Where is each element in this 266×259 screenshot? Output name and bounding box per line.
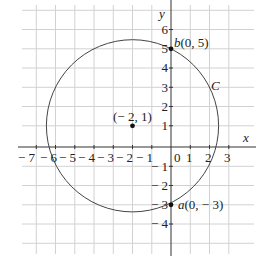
svg-text:− 6: − 6	[40, 150, 58, 165]
svg-text:− 7: − 7	[18, 150, 36, 165]
svg-text:4: 4	[162, 60, 169, 75]
svg-text:− 1: − 1	[151, 159, 168, 174]
svg-text:6: 6	[162, 22, 169, 37]
svg-text:− 3: − 3	[151, 197, 168, 212]
svg-text:2: 2	[205, 150, 212, 165]
center-label: (− 2, 1)	[113, 109, 152, 124]
svg-text:− 4: − 4	[151, 216, 169, 231]
point-a-label: a(0, − 3)	[178, 197, 223, 212]
point-center	[130, 123, 135, 128]
svg-text:− 2: − 2	[116, 150, 133, 165]
svg-text:− 5: − 5	[59, 150, 76, 165]
point-a	[169, 202, 174, 207]
svg-text:− 4: − 4	[78, 150, 96, 165]
point-b	[169, 46, 174, 51]
y-tick-labels: 6 5 4 3 2 1 − 1 − 2 − 3 − 4	[151, 22, 169, 231]
svg-text:2: 2	[162, 99, 169, 114]
svg-text:3: 3	[162, 80, 169, 95]
svg-text:1: 1	[186, 150, 193, 165]
coordinate-plane: y x − 7 − 6 − 5 − 4 − 3 − 2 − 1 0 1 2 3 …	[0, 0, 266, 259]
svg-text:3: 3	[224, 150, 231, 165]
circle-label: C	[211, 78, 220, 93]
point-b-label: b(0, 5)	[174, 35, 209, 50]
svg-text:− 3: − 3	[97, 150, 114, 165]
svg-text:− 2: − 2	[151, 178, 168, 193]
grid	[22, 5, 254, 254]
svg-text:0: 0	[174, 150, 181, 165]
x-tick-labels: − 7 − 6 − 5 − 4 − 3 − 2 − 1 0 1 2 3	[18, 150, 231, 165]
x-axis-label: x	[242, 130, 249, 145]
y-axis-label: y	[157, 6, 165, 21]
svg-text:5: 5	[162, 41, 169, 56]
svg-text:1: 1	[162, 118, 169, 133]
